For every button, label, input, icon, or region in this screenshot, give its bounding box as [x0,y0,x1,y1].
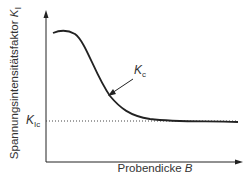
y-axis [44,10,49,162]
diagram-canvas [0,0,251,184]
y-axis-label: Spannungsintensitätsfaktor KI [8,6,22,160]
kc-label: Kc [134,63,146,79]
kc-pointer-arrow [108,79,133,96]
x-axis-label: Probendicke B [100,162,210,174]
kic-label: KIc [26,113,40,129]
